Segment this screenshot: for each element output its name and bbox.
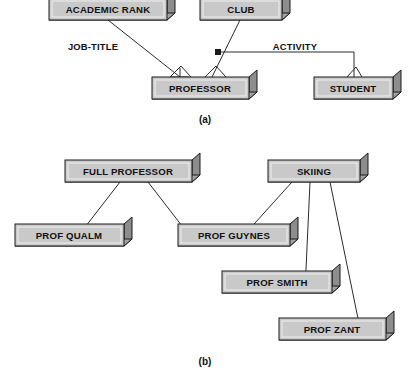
node-club[interactable]: CLUB — [200, 0, 290, 20]
node-club-label: CLUB — [227, 4, 254, 15]
node-prof-qualm-label: PROF QUALM — [36, 230, 103, 241]
node-academic-rank-label: ACADEMIC RANK — [66, 4, 151, 15]
edge-label-activity: ACTIVITY — [273, 41, 318, 52]
node-professor-label: PROFESSOR — [169, 83, 231, 94]
figure-root: JOB-TITLE ACTIVITY ACADEMIC RANK — [0, 0, 416, 373]
node-prof-smith-label: PROF SMITH — [246, 277, 307, 288]
node-student-label: STUDENT — [330, 83, 377, 94]
node-skiing-label: SKIING — [297, 166, 331, 177]
node-prof-zant-label: PROF ZANT — [304, 324, 361, 335]
diagram-canvas: JOB-TITLE ACTIVITY ACADEMIC RANK — [0, 0, 416, 373]
edge-label-job-title: JOB-TITLE — [68, 41, 118, 52]
caption-panel-b: (b) — [199, 356, 212, 367]
node-prof-guynes-label: PROF GUYNES — [198, 230, 270, 241]
node-academic-rank[interactable]: ACADEMIC RANK — [49, 0, 175, 20]
caption-panel-a: (a) — [199, 114, 211, 125]
activity-junction-dot-icon — [215, 49, 221, 55]
node-full-professor-label: FULL PROFESSOR — [83, 166, 173, 177]
